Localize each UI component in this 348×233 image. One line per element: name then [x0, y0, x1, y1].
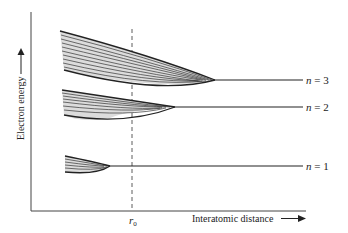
level-label-n3: n = 3	[306, 74, 329, 86]
band-n3	[60, 31, 215, 86]
up-arrow-icon	[18, 48, 25, 55]
level-label-n2: n = 2	[306, 101, 329, 113]
y-axis-label-group: Electron energy	[15, 48, 26, 140]
r0-label: r0	[129, 214, 137, 228]
level-label-n1: n = 1	[306, 160, 329, 172]
y-axis-label: Electron energy	[15, 77, 26, 140]
band-n1	[65, 156, 110, 173]
energy-band-diagram: n = 3 n = 2 n = 1 Electron energy r0 Int…	[0, 0, 348, 233]
band-n2	[62, 90, 175, 120]
x-axis-label: Interatomic distance	[192, 213, 274, 224]
right-arrow-icon	[298, 215, 306, 222]
